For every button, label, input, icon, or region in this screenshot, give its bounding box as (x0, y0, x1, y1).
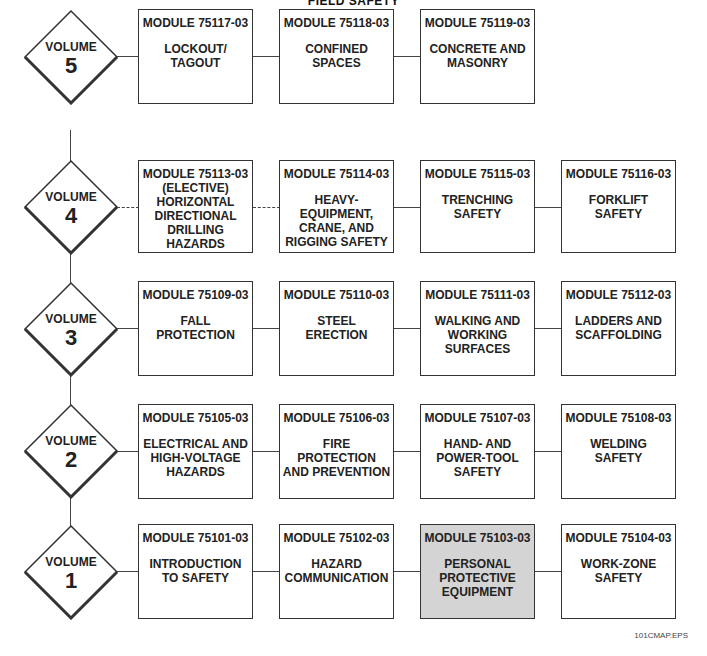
connector (394, 56, 421, 57)
connector (253, 328, 280, 329)
module-code: MODULE 75116-03 (562, 167, 675, 181)
elective-connector (117, 207, 139, 208)
module-name: TRENCHING SAFETY (421, 193, 534, 221)
module-name: STEEL ERECTION (280, 314, 393, 342)
module-name: HAND- AND POWER-TOOL SAFETY (421, 437, 534, 479)
connector (535, 571, 562, 572)
module-code: MODULE 75101-03 (139, 531, 252, 545)
module-code: MODULE 75108-03 (562, 411, 675, 425)
module-name: WELDING SAFETY (562, 437, 675, 465)
module-name: (ELECTIVE) HORIZONTAL DIRECTIONAL DRILLI… (139, 181, 252, 251)
file-label: 101CMAP.EPS (634, 631, 688, 640)
module-code: MODULE 75110-03 (280, 288, 393, 302)
module-name: CONFINED SPACES (280, 42, 393, 70)
connector (117, 571, 139, 572)
module-name: HEAVY- EQUIPMENT, CRANE, AND RIGGING SAF… (280, 193, 393, 249)
volume-label: VOLUME (23, 312, 119, 326)
module-75109: MODULE 75109-03 FALL PROTECTION (138, 281, 253, 376)
volume-label: VOLUME (23, 555, 119, 569)
volume-3-diamond: VOLUME 3 (23, 281, 119, 377)
connector (253, 571, 280, 572)
module-code: MODULE 75109-03 (139, 288, 252, 302)
module-75103-highlighted: MODULE 75103-03 PERSONAL PROTECTIVE EQUI… (420, 524, 535, 619)
module-name: PERSONAL PROTECTIVE EQUIPMENT (421, 557, 534, 599)
diagram-title: FIELD SAFETY (0, 0, 707, 8)
module-code: MODULE 75118-03 (280, 16, 393, 30)
module-75118: MODULE 75118-03 CONFINED SPACES (279, 9, 394, 104)
module-name: WORK-ZONE SAFETY (562, 557, 675, 585)
module-name: FALL PROTECTION (139, 314, 252, 342)
module-name: INTRODUCTION TO SAFETY (139, 557, 252, 585)
volume-1-diamond: VOLUME 1 (23, 524, 119, 620)
volume-number: 4 (23, 203, 119, 229)
connector (117, 451, 139, 452)
volume-4-diamond: VOLUME 4 (23, 159, 119, 255)
volume-label: VOLUME (23, 434, 119, 448)
volume-number: 1 (23, 568, 119, 594)
module-code: MODULE 75113-03 (139, 167, 252, 181)
module-name: HAZARD COMMUNICATION (280, 557, 393, 585)
connector (394, 207, 421, 208)
module-75119: MODULE 75119-03 CONCRETE AND MASONRY (420, 9, 535, 104)
module-name: FIRE PROTECTION AND PREVENTION (280, 437, 393, 479)
module-75108: MODULE 75108-03 WELDING SAFETY (561, 404, 676, 499)
module-code: MODULE 75112-03 (562, 288, 675, 302)
module-code: MODULE 75107-03 (421, 411, 534, 425)
module-name: FORKLIFT SAFETY (562, 193, 675, 221)
module-code: MODULE 75111-03 (421, 288, 534, 302)
module-code: MODULE 75104-03 (562, 531, 675, 545)
connector (117, 328, 139, 329)
module-code: MODULE 75117-03 (139, 16, 252, 30)
module-75111: MODULE 75111-03 WALKING AND WORKING SURF… (420, 281, 535, 376)
connector (253, 451, 280, 452)
connector (117, 56, 139, 57)
module-75110: MODULE 75110-03 STEEL ERECTION (279, 281, 394, 376)
connector (394, 328, 421, 329)
module-75117: MODULE 75117-03 LOCKOUT/ TAGOUT (138, 9, 253, 104)
volume-number: 3 (23, 325, 119, 351)
module-code: MODULE 75103-03 (421, 531, 534, 545)
connector (394, 451, 421, 452)
module-code: MODULE 75106-03 (280, 411, 393, 425)
module-75102: MODULE 75102-03 HAZARD COMMUNICATION (279, 524, 394, 619)
volume-number: 5 (23, 53, 119, 79)
module-75104: MODULE 75104-03 WORK-ZONE SAFETY (561, 524, 676, 619)
module-75116: MODULE 75116-03 FORKLIFT SAFETY (561, 160, 676, 253)
module-code: MODULE 75119-03 (421, 16, 534, 30)
module-name: CONCRETE AND MASONRY (421, 42, 534, 70)
module-name: ELECTRICAL AND HIGH-VOLTAGE HAZARDS (139, 437, 252, 479)
module-75115: MODULE 75115-03 TRENCHING SAFETY (420, 160, 535, 253)
elective-connector (253, 207, 280, 208)
module-75107: MODULE 75107-03 HAND- AND POWER-TOOL SAF… (420, 404, 535, 499)
connector (253, 56, 280, 57)
volume-2-diamond: VOLUME 2 (23, 403, 119, 499)
module-code: MODULE 75115-03 (421, 167, 534, 181)
module-75112: MODULE 75112-03 LADDERS AND SCAFFOLDING (561, 281, 676, 376)
volume-label: VOLUME (23, 40, 119, 54)
volume-5-diamond: VOLUME 5 (23, 9, 119, 105)
module-name: WALKING AND WORKING SURFACES (421, 314, 534, 356)
module-code: MODULE 75102-03 (280, 531, 393, 545)
module-75105: MODULE 75105-03 ELECTRICAL AND HIGH-VOLT… (138, 404, 253, 499)
module-code: MODULE 75114-03 (280, 167, 393, 181)
module-75113-elective: MODULE 75113-03 (ELECTIVE) HORIZONTAL DI… (138, 160, 253, 253)
connector (535, 328, 562, 329)
module-75101: MODULE 75101-03 INTRODUCTION TO SAFETY (138, 524, 253, 619)
connector (535, 207, 562, 208)
module-name: LADDERS AND SCAFFOLDING (562, 314, 675, 342)
volume-number: 2 (23, 447, 119, 473)
module-75114: MODULE 75114-03 HEAVY- EQUIPMENT, CRANE,… (279, 160, 394, 253)
volume-label: VOLUME (23, 190, 119, 204)
module-75106: MODULE 75106-03 FIRE PROTECTION AND PREV… (279, 404, 394, 499)
connector (394, 571, 421, 572)
module-name: LOCKOUT/ TAGOUT (139, 42, 252, 70)
connector (535, 451, 562, 452)
module-code: MODULE 75105-03 (139, 411, 252, 425)
